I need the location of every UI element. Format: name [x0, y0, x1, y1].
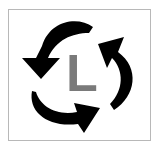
cycle-arrow-right-icon	[98, 37, 133, 110]
logo-letter: L	[66, 49, 96, 97]
